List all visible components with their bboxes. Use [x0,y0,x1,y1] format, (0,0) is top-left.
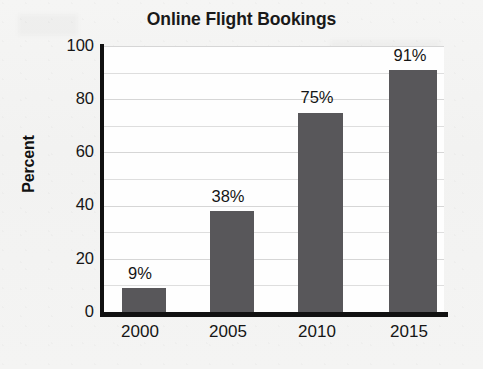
bar-chart-figure: Online Flight Bookings Percent 100 80 60… [0,0,483,369]
x-tick-label-2010: 2010 [277,322,357,342]
y-axis-tick-labels: 100 80 60 40 20 0 [34,0,94,369]
x-tick-label-2015: 2015 [369,322,449,342]
x-tick-label-2005: 2005 [188,322,268,342]
bar-2015 [389,70,437,312]
y-tick-label-60: 60 [38,142,94,161]
bar-2010 [298,113,343,313]
y-tick-label-80: 80 [38,89,94,108]
x-axis-line [100,312,448,317]
y-tick-label-100: 100 [38,36,94,55]
bar-value-label-2010: 75% [278,88,356,107]
bar-value-label-2015: 91% [371,46,449,65]
y-tick-label-0: 0 [38,302,94,321]
x-tick-label-2000: 2000 [100,322,180,342]
y-tick-label-20: 20 [38,249,94,268]
bar-value-label-2005: 38% [190,187,266,206]
bar-value-label-2000: 9% [102,264,178,283]
bar-2005 [210,211,254,312]
y-tick-label-40: 40 [38,195,94,214]
bar-2000 [122,288,166,312]
